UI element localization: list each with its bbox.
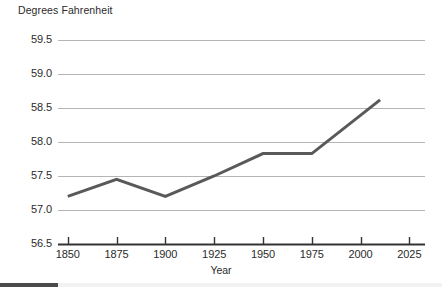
x-tick-label: 2025 bbox=[379, 248, 439, 260]
y-tick-label: 57.0 bbox=[8, 203, 52, 215]
x-tick-marks-group bbox=[69, 237, 410, 244]
y-tick-label: 56.5 bbox=[8, 237, 52, 249]
data-series-line bbox=[68, 100, 380, 197]
gridlines-group bbox=[58, 41, 425, 211]
y-tick-label: 59.0 bbox=[8, 67, 52, 79]
bottom-accent-bar bbox=[0, 283, 58, 287]
y-tick-label: 59.5 bbox=[8, 33, 52, 45]
y-tick-label: 58.5 bbox=[8, 101, 52, 113]
temperature-line-chart: Degrees Fahrenheit 59.559.058.558.057.55… bbox=[0, 0, 442, 294]
y-tick-label: 57.5 bbox=[8, 169, 52, 181]
y-tick-label: 58.0 bbox=[8, 135, 52, 147]
bottom-strip bbox=[58, 283, 442, 287]
x-axis-title: Year bbox=[0, 264, 442, 276]
